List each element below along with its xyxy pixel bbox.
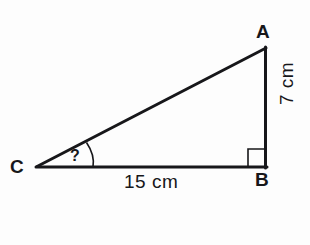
vertex-label-a: A	[256, 22, 270, 41]
diagram-canvas: A B C 15 cm 7 cm ?	[0, 0, 310, 245]
side-label-base: 15 cm	[124, 172, 178, 191]
angle-label-unknown: ?	[70, 148, 80, 164]
vertex-label-c: C	[10, 157, 24, 176]
right-angle-marker	[248, 149, 266, 167]
angle-arc-marker	[87, 143, 94, 168]
vertex-label-b: B	[255, 170, 269, 189]
side-label-height: 7 cm	[277, 62, 296, 105]
